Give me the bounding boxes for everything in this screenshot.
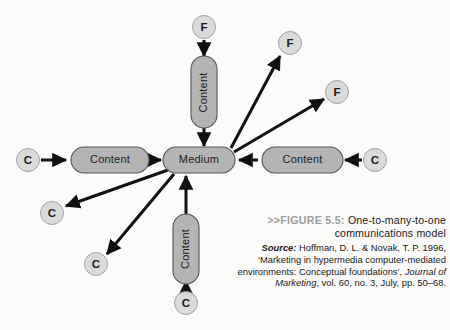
- figure-caption: >>FIGURE 5.5: One-to-many-to-one communi…: [196, 214, 446, 289]
- node-c-right-label: C: [371, 154, 379, 166]
- figure-page: Medium Content Content Content Content C: [0, 0, 450, 330]
- journal-name-part-2: Marketing: [275, 277, 316, 288]
- source-line-3: environments: Conceptual foundations’, J…: [196, 266, 446, 278]
- figure-title-part-2: communications model: [335, 227, 446, 239]
- node-c-lower-left-1-label: C: [48, 207, 56, 219]
- journal-name-part-1: Journal of: [405, 266, 446, 277]
- edge-medium-to-f-upper-right-2: [234, 99, 324, 152]
- figure-title-line-1: >>FIGURE 5.5: One-to-many-to-one: [196, 214, 446, 227]
- figure-number-tag: >>FIGURE 5.5:: [267, 214, 345, 226]
- source-line-1-text: Hoffman, D. L. & Novak, T. P. 1996,: [296, 242, 446, 253]
- node-content-bottom-label: Content: [179, 229, 191, 269]
- node-c-left[interactable]: C: [17, 149, 40, 172]
- node-f-top[interactable]: F: [193, 16, 216, 39]
- figure-title-line-2: communications model: [196, 227, 446, 240]
- node-c-right[interactable]: C: [364, 149, 387, 172]
- node-f-upper-right-2-label: F: [333, 86, 340, 98]
- source-line-4: Marketing, vol. 60, no. 3, July, pp. 50–…: [196, 277, 446, 289]
- source-label: Source:: [262, 242, 297, 253]
- node-medium-label: Medium: [179, 153, 219, 165]
- node-medium[interactable]: Medium: [163, 147, 235, 173]
- node-c-lower-left-2-label: C: [92, 258, 100, 270]
- node-content-right[interactable]: Content: [262, 147, 343, 173]
- figure-title-part-1: One-to-many-to-one: [348, 214, 446, 226]
- figure-source: Source: Hoffman, D. L. & Novak, T. P. 19…: [196, 242, 446, 288]
- node-f-upper-right-1[interactable]: F: [279, 32, 302, 55]
- node-content-left[interactable]: Content: [71, 147, 149, 173]
- node-c-bottom[interactable]: C: [175, 292, 198, 315]
- node-f-top-label: F: [200, 21, 207, 33]
- node-content-right-label: Content: [283, 153, 323, 165]
- node-f-upper-right-1-label: F: [286, 37, 293, 49]
- node-content-top-label: Content: [197, 73, 209, 113]
- source-line-2: ‘Marketing in hypermedia computer-mediat…: [196, 254, 446, 266]
- node-c-lower-left-2[interactable]: C: [85, 253, 108, 276]
- node-content-top[interactable]: Content: [191, 56, 217, 128]
- source-line-3-text: environments: Conceptual foundations’,: [238, 266, 405, 277]
- node-content-left-label: Content: [90, 153, 130, 165]
- source-line-1: Source: Hoffman, D. L. & Novak, T. P. 19…: [196, 242, 446, 254]
- edge-medium-to-f-upper-right-1: [231, 56, 280, 148]
- edge-medium-to-c-lower-left-2: [107, 174, 174, 254]
- node-f-upper-right-2[interactable]: F: [326, 81, 349, 104]
- source-line-4-text: , vol. 60, no. 3, July, pp. 50–68.: [316, 277, 446, 288]
- node-c-bottom-label: C: [182, 297, 190, 309]
- node-c-lower-left-1[interactable]: C: [41, 202, 64, 225]
- node-c-left-label: C: [24, 154, 32, 166]
